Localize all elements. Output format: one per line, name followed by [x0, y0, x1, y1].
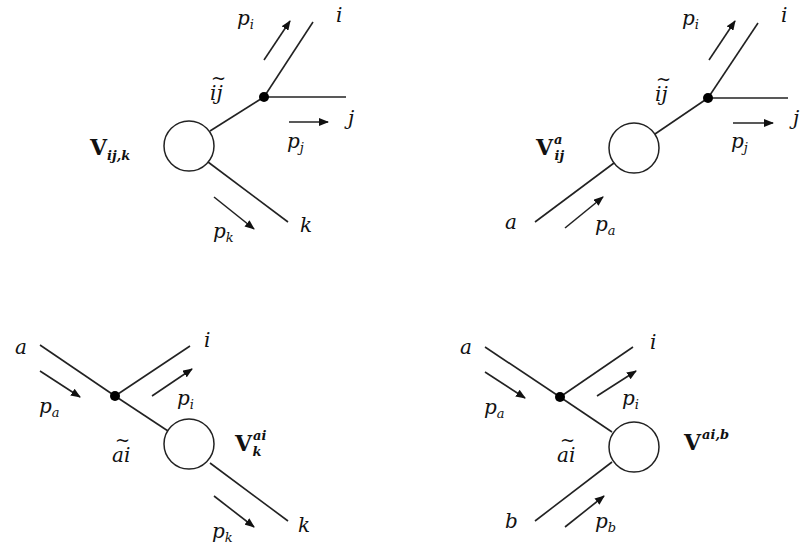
leg-i-line	[264, 22, 313, 97]
momentum-arrow-i	[264, 21, 290, 60]
label-p-j: pj	[287, 129, 304, 155]
blob-vertex	[164, 121, 214, 171]
label-p-i: pi	[177, 386, 194, 412]
label-a: a	[15, 335, 27, 359]
momentum-arrow-i	[709, 21, 735, 60]
splitting-vertex-dot	[703, 93, 713, 103]
label-emitter: ij	[210, 81, 223, 105]
label-a: a	[505, 210, 517, 234]
label-p-k: pk	[213, 219, 234, 245]
diagram-initial-initial: a i b pa pi pb ~ ai Vai,b	[460, 330, 729, 535]
label-i: i	[650, 330, 656, 354]
label-p-i: pi	[682, 6, 699, 32]
vertex-function-label: Vai,b	[683, 427, 729, 455]
label-a: a	[460, 335, 472, 359]
label-i: i	[781, 3, 787, 27]
label-p-a: pa	[39, 394, 60, 420]
leg-k-line	[208, 162, 288, 222]
blob-vertex	[164, 419, 214, 469]
leg-a-line	[40, 345, 115, 396]
blob-vertex	[609, 123, 659, 173]
vertex-function-label: Vaij	[535, 132, 564, 163]
label-k: k	[300, 213, 312, 237]
emitter-line	[560, 397, 612, 432]
label-emitter: ai	[557, 443, 575, 467]
splitting-vertex-dot	[259, 92, 269, 102]
blob-vertex	[609, 422, 659, 472]
diagram-final-final: i j k pi pj pk ~ ij Vij,k	[89, 3, 354, 245]
label-i: i	[336, 3, 342, 27]
diagram-final-initial: i j a pi pj pa ~ ij Vaij	[505, 3, 799, 238]
leg-i-line	[708, 23, 758, 98]
splitting-vertex-dot	[555, 392, 565, 402]
label-p-a: pa	[595, 212, 616, 238]
leg-a-line	[485, 347, 560, 397]
label-emitter: ij	[655, 82, 668, 106]
label-j: j	[344, 106, 354, 130]
diagram-initial-final: a i k pa pi pk ~ ai Vaik	[15, 328, 310, 545]
splitting-vertex-dot	[110, 391, 120, 401]
label-j: j	[789, 106, 799, 130]
label-p-a: pa	[484, 395, 505, 421]
label-p-j: pj	[731, 129, 748, 155]
label-p-i: pi	[622, 386, 639, 412]
label-p-k: pk	[212, 519, 233, 545]
label-p-i: pi	[237, 6, 254, 32]
label-i: i	[204, 328, 210, 352]
label-k: k	[298, 513, 310, 537]
label-p-b: pb	[595, 509, 616, 535]
leg-k-line	[210, 463, 288, 521]
dipole-diagrams-figure: i j k pi pj pk ~ ij Vij,k i j a pi pj pa…	[0, 0, 805, 554]
emitter-line	[115, 396, 168, 431]
vertex-function-label: Vij,k	[89, 134, 130, 163]
label-b: b	[505, 509, 518, 533]
label-emitter: ai	[112, 443, 130, 467]
vertex-function-label: Vaik	[234, 428, 267, 459]
